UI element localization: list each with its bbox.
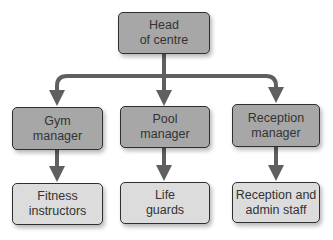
lifeguards-box: Life guards — [120, 182, 210, 224]
lifeguards-line1: Life — [146, 188, 184, 203]
reception-manager-box: Reception manager — [232, 104, 320, 147]
pool-manager-line1: Pool — [140, 112, 189, 127]
gym-manager-line1: Gym — [33, 114, 82, 129]
pool-manager-line2: manager — [140, 127, 189, 142]
reception-staff-line2: admin staff — [236, 203, 317, 218]
reception-staff-line1: Reception and — [236, 188, 317, 203]
lifeguards-line2: guards — [146, 203, 184, 218]
gym-manager-line2: manager — [33, 129, 82, 144]
arrow-head-to-gym — [57, 76, 164, 98]
reception-manager-line1: Reception — [248, 111, 304, 126]
fitness-line1: Fitness — [29, 189, 87, 204]
pool-manager-box: Pool manager — [120, 106, 210, 148]
fitness-instructors-box: Fitness instructors — [12, 183, 103, 225]
reception-manager-line2: manager — [248, 126, 304, 141]
head-of-centre-box: Head of centre — [118, 12, 210, 54]
gym-manager-box: Gym manager — [12, 107, 103, 150]
reception-admin-staff-box: Reception and admin staff — [232, 182, 320, 223]
arrow-head-to-reception — [164, 76, 276, 95]
head-line1: Head — [140, 18, 189, 33]
fitness-line2: instructors — [29, 204, 87, 219]
head-line2: of centre — [140, 33, 189, 48]
org-chart: Head of centre Gym manager Pool manager … — [0, 0, 333, 240]
